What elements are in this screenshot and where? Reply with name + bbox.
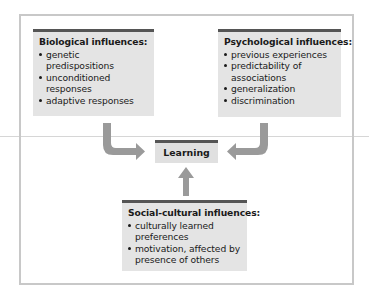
list-item: unconditioned responses (39, 72, 148, 95)
list-item: predictability of associations (224, 60, 335, 83)
list-item: generalization (224, 83, 335, 95)
social-cultural-influences-title: Social-cultural influences: (128, 207, 241, 219)
list-item: culturally learned preferences (128, 220, 241, 243)
social-cultural-influences-box: Social-cultural influences: culturally l… (122, 200, 247, 271)
list-item: motivation, affected by presence of othe… (128, 243, 241, 266)
psychological-influences-title: Psychological influences: (224, 36, 335, 48)
list-item: genetic predispositions (39, 49, 148, 72)
biological-influences-box: Biological influences: genetic predispos… (33, 29, 154, 116)
social-cultural-influences-list: culturally learned preferences motivatio… (128, 220, 241, 266)
arrow-psychological-to-learning-icon (227, 123, 268, 160)
learning-box: Learning (155, 140, 218, 163)
biological-influences-list: genetic predispositions unconditioned re… (39, 49, 148, 107)
psychological-influences-list: previous experiences predictability of a… (224, 49, 335, 107)
list-item: previous experiences (224, 49, 335, 61)
arrow-social-to-learning-icon (178, 167, 194, 196)
list-item: discrimination (224, 95, 335, 107)
list-item: adaptive responses (39, 95, 148, 107)
arrow-biological-to-learning-icon (103, 123, 145, 160)
psychological-influences-box: Psychological influences: previous exper… (218, 29, 341, 117)
biological-influences-title: Biological influences: (39, 36, 148, 48)
